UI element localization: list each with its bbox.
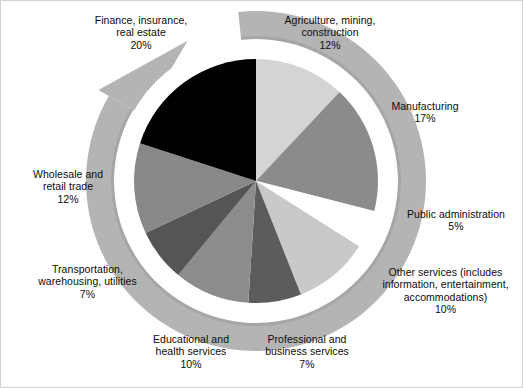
callout-public-administration: Public administration 5% [390, 208, 522, 233]
callout-wholesale-and-retail-trade: Wholesale and retail trade 12% [8, 168, 128, 205]
callout-manufacturing: Manufacturing 17% [353, 100, 497, 125]
callout-educational-and-health-services: Educational and health services 10% [131, 333, 251, 370]
pie-chart-figure: Finance, insurance, real estate 20% Agri… [0, 0, 523, 388]
callout-other-services: Other services (includes information, en… [368, 266, 523, 316]
pie-slices [134, 59, 378, 303]
callout-finance-insurance-real-estate: Finance, insurance, real estate 20% [56, 14, 226, 51]
callout-agriculture-mining-construction: Agriculture, mining, construction 12% [246, 14, 414, 51]
callout-transportation-warehousing-utilities: Transportation, warehousing, utilities 7… [14, 263, 161, 300]
callout-professional-and-business-services: Professional and business services 7% [243, 333, 371, 370]
